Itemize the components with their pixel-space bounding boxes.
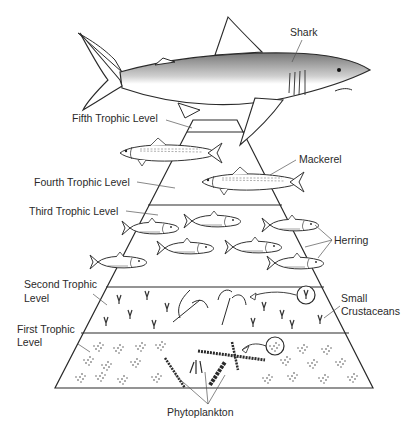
label-first-trophic-level-1: First Trophic — [17, 323, 75, 335]
label-small: Small — [341, 292, 367, 304]
label-mackerel: Mackerel — [299, 153, 342, 165]
label-fifth-trophic-level: Fifth Trophic Level — [72, 112, 158, 124]
label-fourth-trophic-level: Fourth Trophic Level — [34, 176, 130, 188]
label-phytoplankton: Phytoplankton — [167, 406, 234, 418]
label-crustaceans: Crustaceans — [341, 305, 400, 317]
crustaceans-illustration — [104, 286, 322, 329]
label-first-trophic-level-2: Level — [17, 336, 42, 348]
pyramid-illustration — [0, 0, 419, 435]
label-second-trophic-level-2: Level — [24, 292, 49, 304]
label-third-trophic-level: Third Trophic Level — [29, 205, 118, 217]
label-shark: Shark — [290, 26, 317, 38]
phytoplankton-illustration — [75, 337, 357, 388]
label-herring: Herring — [334, 234, 368, 246]
shark-illustration — [78, 17, 370, 145]
label-second-trophic-level-1: Second Trophic — [24, 278, 97, 290]
